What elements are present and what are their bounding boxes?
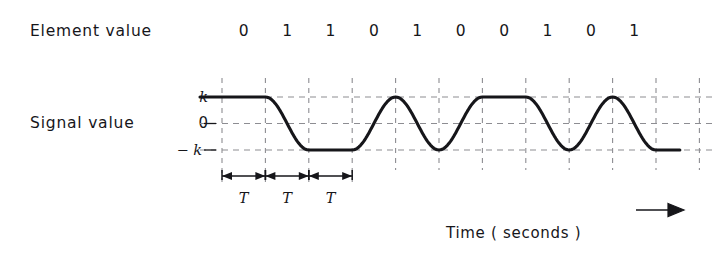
period-arrow-group [222,170,352,180]
waveform-canvas [0,0,728,254]
axis-tick-marks [204,97,216,150]
signal-waveform-figure: Element value Signal value 0110100101 k … [0,0,728,254]
time-direction-arrow [636,204,684,217]
vertical-gridlines [222,78,699,182]
period-arrow [222,170,265,180]
period-arrow [309,170,352,180]
period-arrow [265,170,308,180]
